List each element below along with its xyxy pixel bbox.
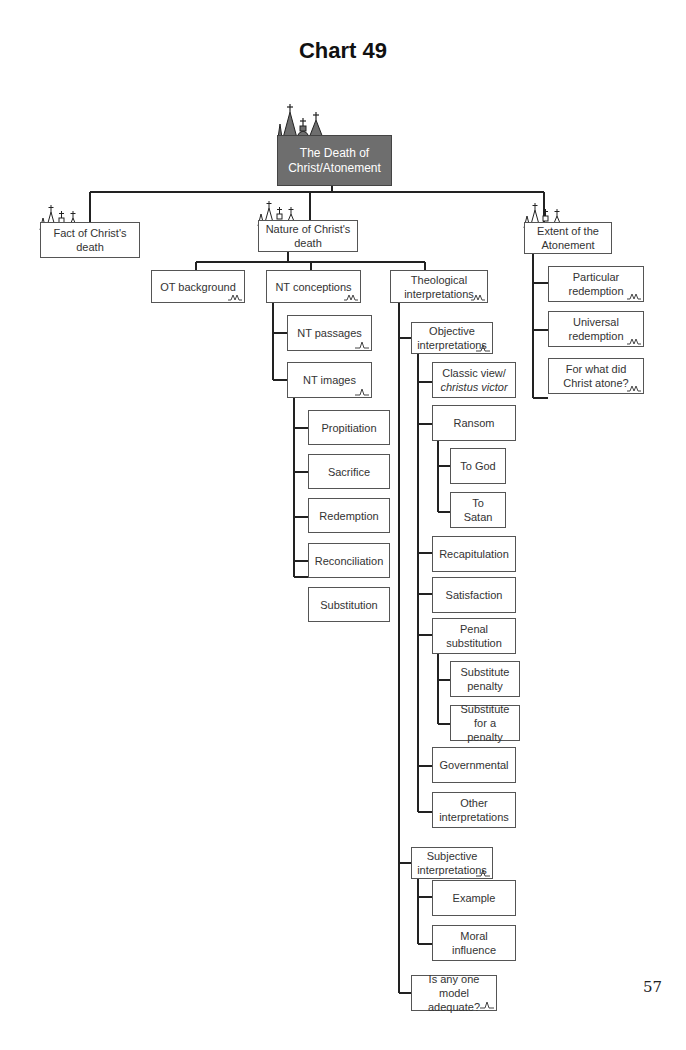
squiggle-icon xyxy=(355,341,369,349)
root-node: The Death of Christ/Atonement xyxy=(277,135,392,186)
node-other-interpretations: Other interpretations xyxy=(432,792,516,828)
node-nt-images: NT images xyxy=(287,362,372,398)
squiggle-icon xyxy=(476,869,490,877)
node-for-what-did-christ-atone: For what did Christ atone? xyxy=(548,358,644,394)
node-to-god: To God xyxy=(450,448,506,484)
node-example: Example xyxy=(432,880,516,916)
node-theological-interpretations: Theological interpretations xyxy=(390,270,488,303)
node-particular-redemption: Particular redemption xyxy=(548,266,644,302)
node-nature-of-christs-death: Nature of Christ's death xyxy=(258,220,358,252)
squiggle-icon xyxy=(627,292,641,300)
squiggle-icon xyxy=(476,344,490,352)
squiggle-icon xyxy=(228,293,242,301)
node-universal-redemption: Universal redemption xyxy=(548,311,644,347)
node-moral-influence: Moral influence xyxy=(432,925,516,961)
node-substitution: Substitution xyxy=(308,587,390,622)
node-governmental: Governmental xyxy=(432,747,516,783)
node-classic-view: Classic view/christus victor xyxy=(432,362,516,398)
node-substitute-penalty: Substitute penalty xyxy=(450,661,520,697)
node-reconciliation: Reconciliation xyxy=(308,543,390,578)
squiggle-icon xyxy=(471,293,485,301)
node-substitute-for-a-penalty: Substitute for a penalty xyxy=(450,705,520,741)
node-extent-of-atonement: Extent of the Atonement xyxy=(524,222,612,254)
squiggle-icon xyxy=(355,388,369,396)
node-is-any-one-model-adequate: Is any one model adequate? xyxy=(411,975,497,1011)
node-ot-background: OT background xyxy=(151,270,245,303)
node-redemption: Redemption xyxy=(308,498,390,533)
node-penal-substitution: Penal substitution xyxy=(432,618,516,654)
node-sacrifice: Sacrifice xyxy=(308,454,390,489)
node-objective-interpretations: Objective interpretations xyxy=(411,322,493,354)
church-skyline-icon xyxy=(276,98,356,138)
node-satisfaction: Satisfaction xyxy=(432,577,516,613)
node-recapitulation: Recapitulation xyxy=(432,536,516,572)
root-label: The Death of Christ/Atonement xyxy=(284,146,385,176)
node-to-satan: To Satan xyxy=(450,492,506,528)
squiggle-icon xyxy=(627,384,641,392)
node-subjective-interpretations: Subjective interpretations xyxy=(411,847,493,879)
squiggle-icon xyxy=(627,337,641,345)
node-fact-of-christs-death: Fact of Christ's death xyxy=(40,222,140,258)
node-nt-passages: NT passages xyxy=(287,315,372,351)
node-propitiation: Propitiation xyxy=(308,410,390,445)
node-ransom: Ransom xyxy=(432,405,516,441)
node-nt-conceptions: NT conceptions xyxy=(266,270,361,303)
squiggle-icon xyxy=(344,293,358,301)
squiggle-icon xyxy=(480,1001,494,1009)
